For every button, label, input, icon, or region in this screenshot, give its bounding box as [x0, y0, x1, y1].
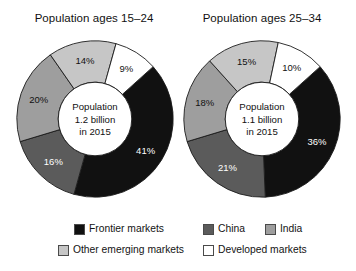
- donut-2-svg: 36%21%18%15%10%Population1.1 billionin 2…: [183, 40, 341, 198]
- slice-value-label: 16%: [44, 156, 64, 167]
- slice-value-label: 9%: [120, 63, 134, 74]
- slice-value-label: 18%: [195, 97, 215, 108]
- pie-chart-figure: Population ages 15–24 Population ages 25…: [0, 0, 356, 271]
- chart-2-title: Population ages 25–34: [174, 12, 350, 24]
- legend-item-frontier: Frontier markets: [74, 223, 164, 235]
- legend-label-frontier: Frontier markets: [89, 223, 164, 235]
- donut-center-label-line: in 2015: [79, 126, 110, 137]
- legend-swatch-frontier: [74, 224, 85, 235]
- slice-value-label: 10%: [282, 62, 302, 73]
- slice-value-label: 36%: [307, 136, 327, 147]
- legend-label-china: China: [218, 223, 245, 235]
- legend-row: Frontier markets China India: [0, 220, 356, 238]
- legend-swatch-china: [203, 224, 214, 235]
- legend-item-developed: Developed markets: [203, 244, 307, 256]
- donut-chart-ages-15-24: 41%16%20%14%9%Population1.2 billionin 20…: [16, 40, 174, 198]
- donut-chart-ages-25-34: 36%21%18%15%10%Population1.1 billionin 2…: [183, 40, 341, 198]
- legend-item-india: India: [265, 223, 302, 235]
- legend-label-developed: Developed markets: [218, 244, 307, 256]
- legend-swatch-india: [265, 224, 276, 235]
- donut-center-label-line: in 2015: [246, 126, 277, 137]
- chart-1-title: Population ages 15–24: [6, 12, 182, 24]
- legend-label-india: India: [280, 223, 302, 235]
- slice-value-label: 15%: [237, 56, 257, 67]
- legend-item-other-emerging: Other emerging markets: [58, 244, 184, 256]
- donut-center-label-line: 1.2 billion: [75, 114, 116, 125]
- slice-value-label: 21%: [218, 162, 238, 173]
- slice-value-label: 14%: [76, 55, 96, 66]
- legend-swatch-other-emerging: [58, 245, 69, 256]
- slice-value-label: 20%: [29, 94, 49, 105]
- legend-row: Other emerging markets Developed markets: [0, 241, 356, 259]
- donut-1-svg: 41%16%20%14%9%Population1.2 billionin 20…: [16, 40, 174, 198]
- slice-value-label: 41%: [136, 145, 156, 156]
- donut-center-label-line: 1.1 billion: [242, 114, 283, 125]
- donut-center-label-line: Population: [72, 101, 117, 112]
- legend-swatch-developed: [203, 245, 214, 256]
- donut-center-label-line: Population: [239, 101, 284, 112]
- legend-label-other-emerging: Other emerging markets: [73, 244, 184, 256]
- legend-item-china: China: [203, 223, 245, 235]
- legend: Frontier markets China India Other emerg…: [0, 214, 356, 264]
